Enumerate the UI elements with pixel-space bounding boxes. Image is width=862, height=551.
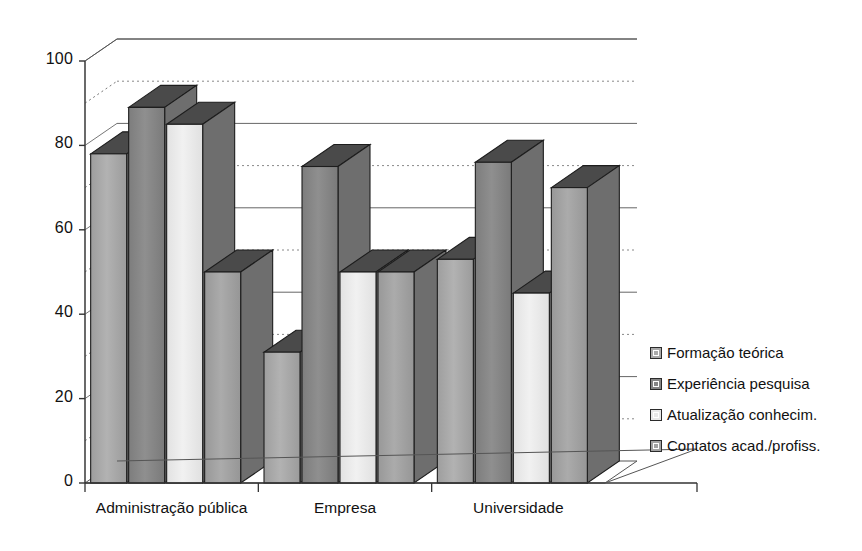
y-axis-tick-label: 100 [31, 50, 73, 68]
bar-3-4 [551, 166, 619, 483]
legend-swatch-icon [650, 440, 662, 452]
bar-chart: 020406080100 Administração públicaEmpres… [0, 0, 862, 551]
legend-item-label: Contatos acad./profiss. [667, 437, 820, 454]
legend-item-label: Experiência pesquisa [667, 375, 810, 392]
legend-item-label: Atualização conhecim. [667, 406, 817, 423]
y-axis-tick-label: 60 [31, 219, 73, 237]
y-axis-tick-label: 0 [31, 472, 73, 490]
x-axis-tick-label: Universidade [388, 499, 648, 517]
y-axis-tick-label: 20 [31, 388, 73, 406]
y-axis-tick-label: 40 [31, 303, 73, 321]
legend-item[interactable]: Formação teórica [650, 337, 820, 368]
legend-item[interactable]: Experiência pesquisa [650, 368, 820, 399]
plot-area: 020406080100 Administração públicaEmpres… [0, 0, 862, 551]
chart-canvas [0, 0, 862, 551]
bar-1-4 [205, 250, 273, 483]
legend-item-label: Formação teórica [667, 344, 784, 361]
legend-swatch-icon [650, 409, 662, 421]
chart-legend: Formação teóricaExperiência pesquisaAtua… [650, 337, 820, 461]
legend-swatch-icon [650, 347, 662, 359]
legend-item[interactable]: Contatos acad./profiss. [650, 430, 820, 461]
bar-2-4 [378, 250, 446, 483]
legend-item[interactable]: Atualização conhecim. [650, 399, 820, 430]
legend-swatch-icon [650, 378, 662, 390]
y-axis-tick-label: 80 [31, 134, 73, 152]
